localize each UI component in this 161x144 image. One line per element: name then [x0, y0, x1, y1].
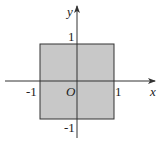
y-tick-pos-label: 1: [68, 29, 75, 44]
origin-label: O: [66, 84, 76, 99]
coordinate-diagram: y 1 -1 O 1 x -1: [0, 0, 161, 144]
x-tick-pos-label: 1: [115, 84, 122, 99]
x-tick-neg-label: -1: [26, 84, 37, 99]
y-axis-label: y: [65, 4, 73, 19]
x-axis-label: x: [149, 84, 156, 99]
y-tick-neg-label: -1: [64, 120, 75, 135]
